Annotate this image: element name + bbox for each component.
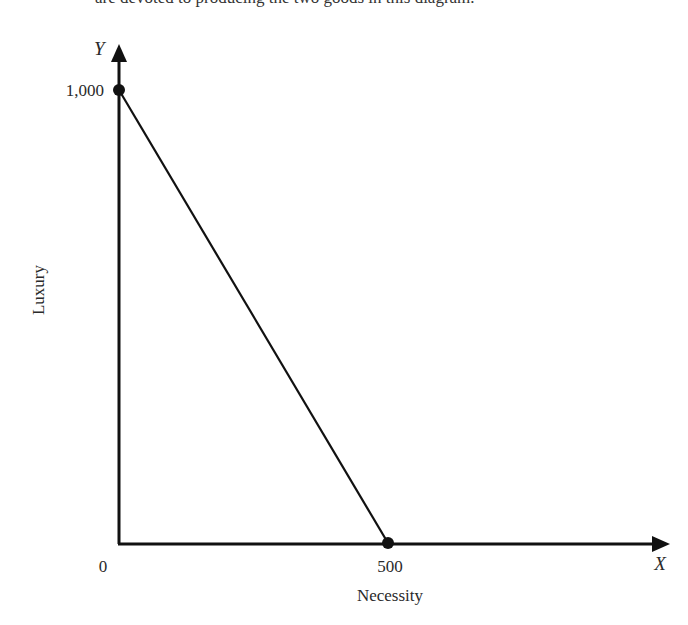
x-axis-arrow-icon — [652, 536, 670, 552]
x-tick-label-500: 500 — [377, 557, 403, 576]
x-axis — [118, 536, 670, 552]
point-x-intercept — [382, 537, 394, 549]
y-axis-symbol: Y — [94, 38, 107, 59]
x-axis-title: Necessity — [357, 586, 424, 605]
y-tick-label-1000: 1,000 — [66, 81, 104, 100]
origin-label: 0 — [99, 557, 108, 576]
y-axis-title: Luxury — [29, 264, 48, 315]
y-axis-arrow-icon — [111, 44, 127, 62]
ppf-line — [119, 90, 388, 543]
point-y-intercept — [113, 84, 125, 96]
y-axis — [111, 44, 127, 544]
ppf-chart: Y 1,000 0 500 X Necessity Luxury — [0, 0, 688, 625]
x-axis-symbol: X — [653, 553, 667, 574]
